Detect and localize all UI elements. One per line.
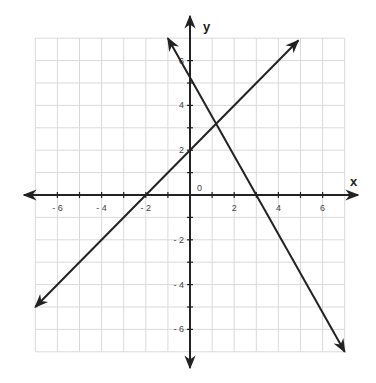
- x-tick-label: 2: [232, 203, 237, 213]
- x-tick-label: - 4: [96, 203, 107, 213]
- x-tick-label: 6: [320, 203, 325, 213]
- y-tick-label: - 6: [173, 324, 184, 334]
- y-tick-label: 4: [179, 100, 184, 110]
- y-tick-label: - 2: [173, 235, 184, 245]
- axes: [24, 16, 358, 368]
- x-axis-label: x: [350, 174, 358, 189]
- y-tick-label: 2: [179, 145, 184, 155]
- x-tick-label: - 2: [141, 203, 152, 213]
- y-tick-label: - 4: [173, 280, 184, 290]
- x-tick-label: 4: [276, 203, 281, 213]
- coordinate-plane: - 6- 4- 2246642- 2- 4- 6 x y 0: [0, 0, 376, 383]
- origin-label: 0: [197, 183, 202, 193]
- x-tick-label: - 6: [52, 203, 63, 213]
- y-axis-label: y: [203, 19, 211, 34]
- line-1: [35, 40, 298, 307]
